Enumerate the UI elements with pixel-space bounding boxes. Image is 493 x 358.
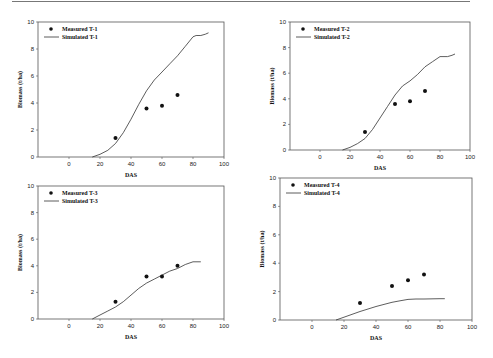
chart-panel-t4: 0204060801000246810DASBiomass (t/ha)Meas… — [0, 0, 493, 358]
measured-point — [422, 273, 426, 277]
y-tick-label: 4 — [273, 260, 277, 266]
measured-point — [390, 284, 394, 288]
y-tick-label: 0 — [273, 317, 277, 323]
x-tick-label: 60 — [405, 324, 412, 330]
legend-marker-icon — [291, 183, 295, 187]
measured-point — [406, 278, 410, 282]
chart-svg-t4: 0204060801000246810DASBiomass (t/ha)Meas… — [0, 0, 493, 358]
x-tick-label: 0 — [310, 324, 314, 330]
y-tick-label: 6 — [273, 232, 277, 238]
measured-point — [358, 301, 362, 305]
x-tick-label: 20 — [341, 324, 348, 330]
y-tick-label: 8 — [273, 203, 277, 209]
legend-simulated-label: Simulated T-4 — [304, 190, 340, 196]
simulated-line — [336, 299, 445, 320]
x-tick-label: 80 — [437, 324, 444, 330]
x-tick-label: 40 — [373, 324, 380, 330]
y-tick-label: 2 — [273, 289, 277, 295]
x-tick-label: 100 — [467, 324, 478, 330]
x-axis-label: DAS — [370, 335, 383, 341]
y-tick-label: 10 — [269, 175, 276, 181]
y-axis-label: Biomass (t/ha) — [259, 231, 266, 268]
legend-measured-label: Measured T-4 — [304, 182, 339, 188]
